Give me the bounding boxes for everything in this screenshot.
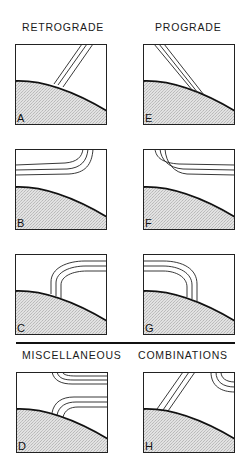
panel-h: H: [143, 372, 235, 453]
panel-label-a: A: [17, 113, 24, 124]
panel-label-d: D: [18, 441, 26, 452]
panel-d: D: [16, 372, 108, 453]
panel-label-g: G: [145, 323, 154, 334]
panel-e: E: [143, 44, 235, 125]
section-divider: [16, 342, 235, 344]
panel-a: A: [15, 44, 107, 125]
panel-c: C: [15, 254, 107, 335]
panel-g: G: [143, 254, 235, 335]
heading-prograde: PROGRADE: [155, 21, 222, 33]
panel-b: B: [15, 149, 107, 230]
heading-combinations: COMBINATIONS: [138, 349, 228, 361]
panel-label-e: E: [145, 113, 152, 124]
panel-label-b: B: [17, 218, 24, 229]
heading-miscellaneous: MISCELLANEOUS: [22, 349, 122, 361]
panel-f: F: [143, 149, 235, 230]
heading-retrograde: RETROGRADE: [22, 21, 104, 33]
panel-label-f: F: [145, 218, 152, 229]
panel-label-c: C: [17, 323, 25, 334]
panel-label-h: H: [145, 441, 153, 452]
